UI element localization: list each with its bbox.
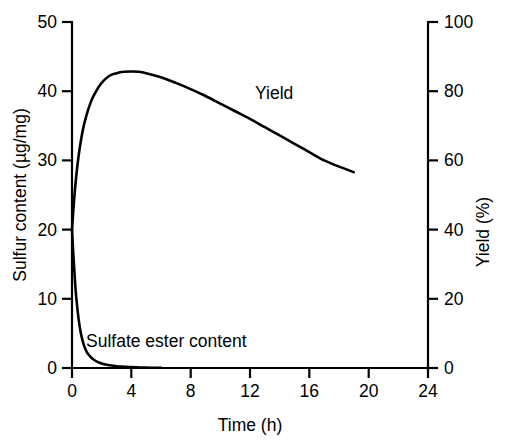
x-tick-labels: 0 4 8 12 16 20 24	[67, 381, 438, 401]
x-tick-label-24: 24	[418, 381, 438, 401]
left-y-ticks	[62, 22, 72, 368]
right-y-ticks	[428, 22, 438, 368]
x-tick-label-8: 8	[186, 381, 196, 401]
right-y-axis-title: Yield (%)	[473, 197, 493, 267]
yield-curve	[72, 71, 354, 229]
left-y-tick-label-50: 50	[38, 12, 58, 32]
x-ticks	[72, 368, 428, 378]
right-y-tick-labels: 0 20 40 60 80 100	[444, 12, 473, 378]
left-y-tick-label-40: 40	[38, 81, 58, 101]
left-y-tick-label-10: 10	[38, 289, 58, 309]
dual-axis-line-chart: 0 10 20 30 40 50 0 4 8 12 16 20 24	[0, 0, 507, 447]
right-y-tick-label-0: 0	[444, 358, 454, 378]
x-tick-label-12: 12	[240, 381, 259, 401]
x-tick-label-4: 4	[126, 381, 136, 401]
x-tick-label-0: 0	[67, 381, 77, 401]
right-y-tick-label-60: 60	[444, 150, 464, 170]
right-y-tick-label-100: 100	[444, 12, 473, 32]
x-axis-title: Time (h)	[218, 415, 283, 435]
x-tick-label-20: 20	[359, 381, 379, 401]
sulfate-ester-series-label: Sulfate ester content	[86, 331, 247, 351]
left-y-tick-label-30: 30	[38, 150, 58, 170]
left-y-tick-label-20: 20	[38, 220, 58, 240]
right-y-tick-label-40: 40	[444, 220, 464, 240]
left-y-tick-label-0: 0	[47, 358, 57, 378]
right-y-tick-label-20: 20	[444, 289, 464, 309]
left-y-axis-title: Sulfur content (µg/mg)	[10, 108, 30, 282]
right-y-tick-label-80: 80	[444, 81, 464, 101]
figure-container: 0 10 20 30 40 50 0 4 8 12 16 20 24	[0, 0, 507, 447]
yield-series-label: Yield	[255, 83, 293, 103]
x-tick-label-16: 16	[300, 381, 319, 401]
left-y-tick-labels: 0 10 20 30 40 50	[38, 12, 58, 378]
